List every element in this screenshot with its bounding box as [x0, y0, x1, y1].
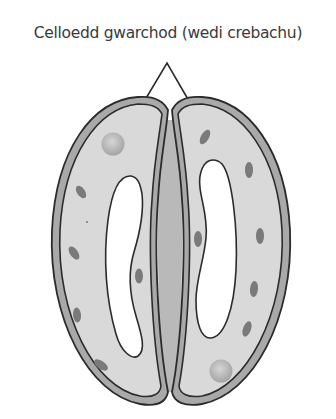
pointer-lines — [145, 63, 189, 101]
guard-cells-diagram — [0, 0, 336, 419]
right-guard-cell — [172, 97, 290, 405]
left-guard-cell — [52, 97, 168, 405]
nucleus — [102, 133, 125, 156]
nucleus — [210, 360, 233, 383]
